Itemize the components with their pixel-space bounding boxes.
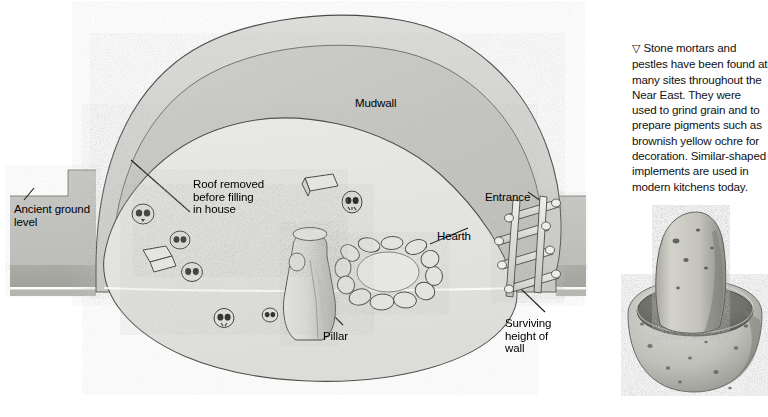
skull <box>342 191 362 213</box>
caption-text: Stone mortars and pestles have been foun… <box>632 41 767 193</box>
stone-mortar-and-pestle-photo <box>620 196 768 396</box>
illustration-page: Ancient ground level Roof removed before… <box>0 0 768 417</box>
mortar-svg <box>620 196 768 396</box>
ground-left <box>10 170 96 296</box>
label-surviving-height-of-wall: Surviving height of wall <box>505 317 551 355</box>
skull <box>132 204 154 224</box>
label-hearth: Hearth <box>437 230 471 243</box>
label-pillar: Pillar <box>323 330 348 343</box>
label-mudwall: Mudwall <box>355 97 396 110</box>
label-ancient-ground-level: Ancient ground level <box>14 203 90 228</box>
label-entrance: Entrance <box>485 191 530 204</box>
pestle <box>656 212 726 333</box>
skull <box>182 263 203 282</box>
label-roof-removed: Roof removed before filling in house <box>193 178 264 216</box>
skull <box>170 231 190 249</box>
house-cutaway-figure: Ancient ground level Roof removed before… <box>0 0 610 417</box>
skull <box>214 309 234 328</box>
skull <box>262 308 278 322</box>
triangle-marker-icon: ▽ <box>632 42 640 54</box>
caption-block: ▽ Stone mortars and pestles have been fo… <box>632 40 768 194</box>
